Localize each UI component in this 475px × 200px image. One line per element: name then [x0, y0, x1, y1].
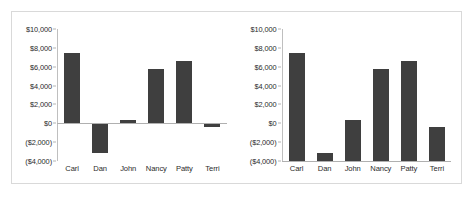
bar-patty [176, 61, 192, 123]
chart-panel-right: ($4,000)($2,000)$0$2,000$4,000$6,000$8,0… [237, 12, 462, 183]
x-tick-label-carl: Carl [290, 164, 304, 173]
y-tick-mark [53, 104, 56, 105]
value-axis-baseline [282, 161, 452, 162]
y-tick-label: $8,000 [30, 43, 52, 52]
x-tick-label-terri: Terri [430, 164, 444, 173]
chart-panel-left: ($4,000)($2,000)$0$2,000$4,000$6,000$8,0… [12, 12, 237, 183]
y-tick-mark [53, 142, 56, 143]
y-tick-mark [53, 47, 56, 48]
plot-area-right [283, 29, 452, 161]
y-tick-label: $2,000 [254, 100, 276, 109]
y-tick-mark [278, 142, 281, 143]
x-tick-label-nancy: Nancy [146, 164, 167, 173]
bar-nancy [148, 69, 164, 124]
y-tick-mark [278, 85, 281, 86]
y-tick-label: $6,000 [254, 62, 276, 71]
y-tick-mark [53, 29, 56, 30]
y-tick-label: ($2,000) [250, 138, 277, 147]
y-tick-mark [278, 104, 281, 105]
bar-dan [317, 153, 333, 161]
y-tick-mark [278, 123, 281, 124]
bar-terri [429, 127, 445, 161]
y-tick-label: $4,000 [254, 81, 276, 90]
y-tick-label: $10,000 [250, 25, 276, 34]
x-tick-label-dan: Dan [318, 164, 332, 173]
bar-carl [289, 53, 305, 161]
y-tick-label: $2,000 [30, 100, 52, 109]
y-axis-labels-left: ($4,000)($2,000)$0$2,000$4,000$6,000$8,0… [12, 29, 56, 161]
y-tick-label: $6,000 [30, 62, 52, 71]
bar-carl [64, 53, 80, 124]
x-axis-labels-right: CarlDanJohnNancyPattyTerri [283, 164, 452, 180]
x-tick-label-john: John [120, 164, 136, 173]
plot-area-left [58, 29, 227, 161]
x-tick-label-dan: Dan [93, 164, 107, 173]
y-tick-label: ($4,000) [25, 157, 52, 166]
y-tick-label: $8,000 [254, 43, 276, 52]
y-axis-labels-right: ($4,000)($2,000)$0$2,000$4,000$6,000$8,0… [237, 29, 281, 161]
y-tick-label: ($4,000) [250, 157, 277, 166]
x-tick-label-patty: Patty [176, 164, 193, 173]
x-tick-label-nancy: Nancy [370, 164, 391, 173]
y-tick-mark [278, 161, 281, 162]
bar-john [345, 120, 361, 161]
y-tick-mark [53, 66, 56, 67]
value-axis-baseline [57, 123, 227, 124]
bar-nancy [373, 69, 389, 161]
bar-patty [401, 61, 417, 161]
bar-dan [92, 123, 108, 152]
y-tick-label: $4,000 [30, 81, 52, 90]
y-tick-label: $0 [44, 119, 52, 128]
y-tick-mark [53, 123, 56, 124]
x-axis-labels-left: CarlDanJohnNancyPattyTerri [58, 164, 227, 180]
x-tick-label-carl: Carl [65, 164, 79, 173]
x-tick-label-patty: Patty [400, 164, 417, 173]
y-tick-label: $0 [268, 119, 276, 128]
x-tick-label-john: John [345, 164, 361, 173]
y-tick-mark [278, 66, 281, 67]
y-tick-mark [53, 161, 56, 162]
y-tick-mark [278, 29, 281, 30]
chart-figure-frame: ($4,000)($2,000)$0$2,000$4,000$6,000$8,0… [11, 11, 462, 184]
y-tick-mark [278, 47, 281, 48]
y-tick-label: ($2,000) [25, 138, 52, 147]
y-tick-mark [53, 85, 56, 86]
y-tick-label: $10,000 [26, 25, 52, 34]
x-tick-label-terri: Terri [205, 164, 219, 173]
